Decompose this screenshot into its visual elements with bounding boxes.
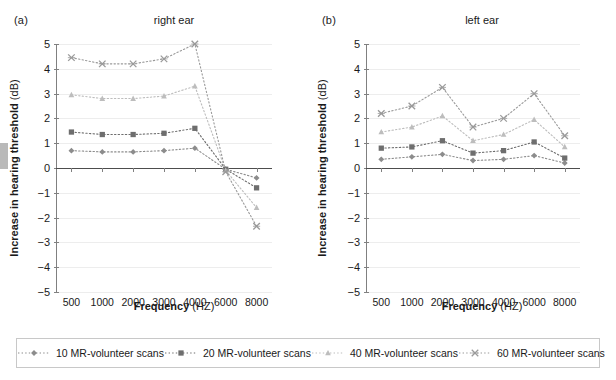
diamond-marker <box>409 154 415 160</box>
square-marker <box>100 132 105 137</box>
square-marker <box>440 138 445 143</box>
y-axis-tick-label: 2 <box>44 112 50 124</box>
legend-item[interactable]: 20 MR-volunteer scans <box>164 347 311 359</box>
panel-title-left-ear: left ear <box>308 14 616 26</box>
series-line <box>71 128 256 188</box>
y-axis-title-unit: (dB) <box>8 79 20 103</box>
y-axis-tick-label: −1 <box>347 187 360 199</box>
diamond-marker <box>31 350 37 356</box>
legend-item[interactable]: 10 MR-volunteer scans <box>17 347 164 359</box>
diamond-marker <box>501 156 507 162</box>
x-marker <box>439 84 446 91</box>
y-axis-tick-label: 3 <box>44 88 50 100</box>
y-axis-tick <box>54 292 59 293</box>
figure-root: (a) right ear Increase in hearing thresh… <box>0 0 616 380</box>
x-axis-title-bold: Frequency <box>442 300 498 312</box>
chart-legend: 10 MR-volunteer scans 20 MR-volunteer sc… <box>16 338 600 368</box>
x-marker <box>531 90 538 97</box>
legend-label: 10 MR-volunteer scans <box>56 347 164 359</box>
x-marker <box>99 61 106 68</box>
legend-marker <box>164 347 198 359</box>
legend-marker-svg <box>17 347 51 359</box>
x-axis-title: Frequency (HZ) <box>0 300 308 312</box>
legend-item[interactable]: 40 MR-volunteer scans <box>311 347 458 359</box>
x-marker <box>253 223 260 230</box>
y-axis-title-bold: Increase in hearing threshold <box>316 103 328 256</box>
series-layer <box>56 44 272 292</box>
panel-left-ear: (b) left ear Increase in hearing thresho… <box>308 0 616 330</box>
triangle-marker <box>378 129 384 134</box>
square-marker <box>69 129 74 134</box>
y-axis-tick-label: −2 <box>347 212 360 224</box>
series-line <box>381 87 564 135</box>
x-marker <box>160 56 167 63</box>
diamond-marker <box>254 175 260 181</box>
square-marker <box>254 185 259 190</box>
triangle-marker <box>531 117 537 122</box>
legend-label: 60 MR-volunteer scans <box>497 347 605 359</box>
square-marker <box>470 150 475 155</box>
x-marker <box>469 124 476 131</box>
square-marker <box>532 139 537 144</box>
legend-marker-svg <box>164 347 198 359</box>
y-axis-tick-label: −5 <box>37 286 50 298</box>
square-marker <box>161 131 166 136</box>
plot-area-left-ear: 543210−1−2−3−4−5500100020003000400060008… <box>366 44 580 292</box>
x-marker <box>500 115 507 122</box>
legend-marker <box>17 347 51 359</box>
legend-marker <box>458 347 492 359</box>
y-axis-tick-label: −3 <box>37 236 50 248</box>
square-marker <box>409 144 414 149</box>
y-axis-tick-label: 3 <box>354 88 360 100</box>
diamond-marker <box>378 156 384 162</box>
x-marker <box>378 110 385 117</box>
x-axis-title: Frequency (HZ) <box>308 300 616 312</box>
legend-marker-svg <box>458 347 492 359</box>
diamond-marker <box>161 148 167 154</box>
diamond-marker <box>68 148 74 154</box>
x-marker <box>68 54 75 61</box>
series-layer <box>366 44 580 292</box>
square-marker <box>379 146 384 151</box>
y-axis-title-unit: (dB) <box>316 79 328 103</box>
square-marker <box>192 126 197 131</box>
triangle-marker <box>130 95 136 100</box>
x-marker <box>561 133 568 140</box>
triangle-marker <box>440 113 446 118</box>
gridline <box>366 292 580 293</box>
legend-item[interactable]: 60 MR-volunteer scans <box>458 347 605 359</box>
square-marker <box>562 155 567 160</box>
y-axis-tick-label: −2 <box>37 212 50 224</box>
y-axis-tick-label: 4 <box>44 63 50 75</box>
y-axis-tick-label: 0 <box>354 162 360 174</box>
y-axis-tick-label: 1 <box>44 137 50 149</box>
diamond-marker <box>99 149 105 155</box>
y-axis-tick-label: −1 <box>37 187 50 199</box>
triangle-marker <box>501 131 507 136</box>
diamond-marker <box>531 153 537 159</box>
x-marker <box>471 350 478 357</box>
x-axis-title-unit: (HZ) <box>189 300 214 312</box>
triangle-marker <box>69 92 75 97</box>
x-marker <box>408 103 415 110</box>
diamond-marker <box>130 149 136 155</box>
y-axis-tick-label: 5 <box>44 38 50 50</box>
y-axis-tick-label: 5 <box>354 38 360 50</box>
square-marker <box>178 350 183 355</box>
x-marker <box>130 61 137 68</box>
panel-right-ear: (a) right ear Increase in hearing thresh… <box>0 0 308 330</box>
diamond-marker <box>439 151 445 157</box>
y-axis-tick-label: 0 <box>44 162 50 174</box>
diamond-marker <box>470 158 476 164</box>
square-marker <box>501 148 506 153</box>
y-axis-title: Increase in hearing threshold (dB) <box>314 44 330 292</box>
y-axis-tick-label: −3 <box>347 236 360 248</box>
y-axis-title: Increase in hearing threshold (dB) <box>6 44 22 292</box>
triangle-marker <box>192 83 198 88</box>
legend-label: 40 MR-volunteer scans <box>350 347 458 359</box>
y-axis-tick-label: −5 <box>347 286 360 298</box>
y-axis-tick-label: −4 <box>347 261 360 273</box>
legend-label: 20 MR-volunteer scans <box>203 347 311 359</box>
legend-marker-svg <box>311 347 345 359</box>
plot-area-right-ear: 543210−1−2−3−4−5500100020003000400060008… <box>56 44 272 292</box>
